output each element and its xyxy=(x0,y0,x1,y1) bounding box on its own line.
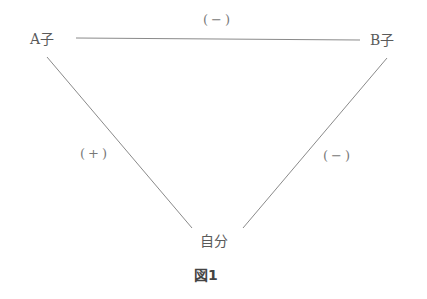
node-b-label: B子 xyxy=(370,32,394,48)
edge-a-self-sign: (+) xyxy=(80,147,110,161)
node-a-label: A子 xyxy=(30,31,54,47)
figure-caption: 図1 xyxy=(194,267,218,283)
edge-a-b xyxy=(76,38,360,40)
node-self-label: 自分 xyxy=(200,233,228,249)
edge-b-self-sign: (−) xyxy=(323,149,353,163)
edge-b-self xyxy=(243,58,387,228)
triangle-diagram xyxy=(0,0,427,299)
edge-a-self xyxy=(47,57,192,228)
edge-a-b-sign: (−) xyxy=(203,13,233,27)
